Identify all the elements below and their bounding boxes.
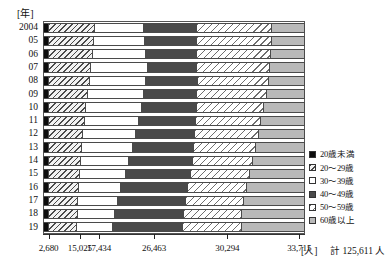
x-axis-tick-label: 2,680 — [39, 243, 59, 253]
legend-swatch-icon — [309, 191, 316, 198]
legend-item[interactable]: 40〜49歳 — [309, 188, 379, 201]
y-axis-tick-label: 05 — [29, 36, 39, 46]
bar-segment — [139, 116, 197, 126]
bar-segment — [197, 62, 270, 72]
bar-segment — [81, 156, 129, 166]
legend-item[interactable]: 30〜39歳 — [309, 174, 379, 187]
legend-item[interactable]: 50〜59歳 — [309, 201, 379, 214]
y-axis-tick-label: 17 — [29, 196, 39, 206]
bar-segment — [144, 89, 197, 99]
bar-segment — [80, 169, 125, 179]
bar-row — [43, 182, 305, 192]
bar-row — [43, 209, 305, 219]
x-axis-tick — [227, 234, 228, 239]
y-axis-tick-label: 2004 — [19, 23, 38, 33]
bar-segment — [94, 36, 145, 46]
bar-row — [43, 49, 305, 59]
bar-segment — [78, 209, 115, 219]
bar-segment — [49, 23, 95, 33]
bar-segment — [49, 209, 78, 219]
x-axis-tick — [49, 234, 50, 239]
bar-segment — [91, 62, 147, 72]
bar-row — [43, 142, 305, 152]
y-axis-tick-label: 18 — [29, 209, 39, 219]
bar-rows — [43, 21, 305, 234]
bar-row — [43, 36, 305, 46]
legend-swatch-icon — [309, 177, 316, 184]
bar-segment — [90, 76, 147, 86]
y-axis-tick-label: 15 — [29, 169, 39, 179]
y-axis-tick-label: 12 — [29, 129, 39, 139]
bar-segment — [146, 76, 197, 86]
legend-item[interactable]: 60歳以上 — [309, 214, 379, 227]
bar-segment — [136, 129, 196, 139]
bar-segment — [142, 102, 198, 112]
x-axis-tick — [154, 234, 155, 239]
bar-segment — [121, 182, 188, 192]
bar-segment — [197, 36, 272, 46]
bar-row — [43, 196, 305, 206]
y-axis-tick-label: 14 — [29, 156, 39, 166]
bar-segment — [133, 142, 195, 152]
bar-segment — [253, 156, 305, 166]
legend-swatch-icon — [309, 217, 316, 224]
bar-row — [43, 156, 305, 166]
bar-segment — [269, 76, 305, 86]
bar-row — [43, 169, 305, 179]
legend-item[interactable]: 20〜29歳 — [309, 161, 379, 174]
bar-segment — [77, 222, 113, 232]
bar-segment — [264, 102, 305, 112]
bar-segment — [183, 222, 242, 232]
bar-row — [43, 76, 305, 86]
bar-segment — [49, 36, 94, 46]
bar-segment — [79, 182, 121, 192]
bar-segment — [271, 49, 305, 59]
legend-swatch-icon — [309, 164, 316, 171]
legend-label: 40〜49歳 — [320, 190, 354, 199]
legend-item[interactable]: 20歳未満 — [309, 148, 379, 161]
bar-segment — [270, 62, 305, 72]
legend-label: 30〜39歳 — [320, 177, 354, 186]
bar-row — [43, 102, 305, 112]
x-axis-tick-label: 17,434 — [87, 243, 111, 253]
x-axis-tick-label: 30,294 — [215, 243, 239, 253]
bar-segment — [197, 49, 271, 59]
bar-segment — [49, 156, 81, 166]
bar-segment — [272, 23, 305, 33]
x-axis-tick — [299, 234, 300, 239]
bar-segment — [247, 182, 305, 192]
bar-segment — [259, 129, 305, 139]
bar-segment — [198, 76, 270, 86]
bar-row — [43, 62, 305, 72]
y-axis-tick-label: 06 — [29, 50, 39, 60]
legend-label: 60歳以上 — [320, 216, 355, 225]
x-axis-tick-label: 26,463 — [142, 243, 166, 253]
bar-row — [43, 116, 305, 126]
bar-segment — [197, 102, 264, 112]
bar-segment — [250, 169, 305, 179]
bar-segment — [83, 129, 135, 139]
x-axis-tick — [99, 234, 100, 239]
bar-segment — [49, 49, 92, 59]
bar-segment — [188, 182, 246, 192]
bar-segment — [261, 116, 304, 126]
y-axis-tick-label: 10 — [29, 103, 39, 113]
y-axis-tick-label: 19 — [29, 223, 39, 233]
bar-segment — [197, 23, 272, 33]
y-axis-tick-label: 11 — [29, 116, 38, 126]
bar-segment — [49, 116, 85, 126]
bar-segment — [49, 222, 78, 232]
bar-segment — [244, 196, 305, 206]
bar-segment — [196, 116, 261, 126]
bar-segment — [195, 129, 258, 139]
bar-segment — [145, 36, 197, 46]
bar-segment — [144, 23, 197, 33]
bar-segment — [49, 142, 83, 152]
bar-segment — [115, 209, 184, 219]
bar-segment — [49, 102, 86, 112]
y-axis-tick-label: 16 — [29, 183, 39, 193]
bar-segment — [242, 209, 305, 219]
y-axis-tick-label: 07 — [29, 63, 39, 73]
y-axis-tick-label: 09 — [29, 90, 39, 100]
